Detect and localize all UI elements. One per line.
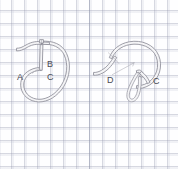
left-thread-top-stub	[43, 42, 50, 45]
left-thread-tail	[16, 41, 41, 50]
label-a: A	[17, 73, 23, 82]
label-d: D	[107, 76, 114, 85]
right-thread-tail	[93, 56, 116, 75]
label-b: B	[47, 60, 53, 69]
label-c2: C	[153, 77, 160, 86]
left-thread-vertical-segment	[39, 45, 43, 70]
right-thread-inner-loop	[127, 72, 141, 102]
left-figure-group	[16, 40, 69, 102]
label-c: C	[47, 73, 54, 82]
right-leader-line-d	[112, 63, 134, 75]
right-figure-group	[93, 41, 160, 102]
stitch-diagram-canvas: .band { fill:#f4f4f6; stroke:#8e8e98; st…	[0, 0, 178, 169]
stitch-artwork: .band { fill:#f4f4f6; stroke:#8e8e98; st…	[0, 0, 178, 169]
left-thread-main-loop	[21, 41, 70, 102]
